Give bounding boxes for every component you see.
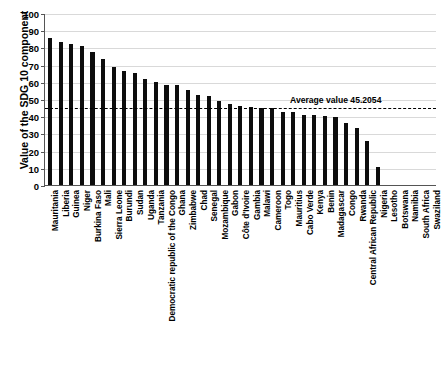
bar [249, 107, 253, 186]
y-tick-label: 80 [28, 43, 39, 54]
bar [238, 106, 242, 186]
x-label-slot: Liberia [55, 190, 66, 340]
bar-slot [193, 14, 204, 186]
y-tick-label: 10 [28, 163, 39, 174]
x-label-slot: Mauritania [44, 190, 55, 340]
y-tick-label: 70 [28, 60, 39, 71]
x-label-slot: Zimbabwe [182, 190, 193, 340]
x-label-slot: Benin [319, 190, 330, 340]
bar-slot [161, 14, 172, 186]
y-tick-label: 100 [23, 9, 39, 20]
y-tick-label: 50 [28, 95, 39, 106]
bar-slot [256, 14, 267, 186]
x-label-slot: Mali [97, 190, 108, 340]
bar-slot [415, 14, 426, 186]
bar [80, 46, 84, 186]
bar [112, 67, 116, 186]
y-tick-label: 90 [28, 26, 39, 37]
bar-slot [119, 14, 130, 186]
y-tick-label: 0 [34, 181, 39, 192]
bar [323, 116, 327, 186]
x-label-slot: Swaziland [425, 190, 436, 340]
bar [164, 85, 168, 186]
bar-slot [425, 14, 436, 186]
x-label-slot: Burundi [118, 190, 129, 340]
bar [355, 128, 359, 186]
x-label-slot: Namibia [404, 190, 415, 340]
x-label-slot: Cabo Verde [298, 190, 309, 340]
bar [48, 38, 52, 186]
bar-slot [394, 14, 405, 186]
sdg10-bar-chart-figure: Value of the SDG 10 component 0102030405… [0, 0, 444, 374]
bar [333, 117, 337, 186]
bar [259, 108, 263, 186]
bar-slot [277, 14, 288, 186]
x-label-slot: Congo [341, 190, 352, 340]
bar-slot [225, 14, 236, 186]
x-label-slot: Senegal [203, 190, 214, 340]
x-label-slot: Gambia [245, 190, 256, 340]
x-label-slot: Madagascar [330, 190, 341, 340]
x-label-slot: Gabon [224, 190, 235, 340]
bar [344, 123, 348, 186]
bar [228, 104, 232, 186]
bar-slot [56, 14, 67, 186]
bar [217, 101, 221, 186]
y-tick-label: 40 [28, 112, 39, 123]
bar [90, 52, 94, 186]
x-label-slot: Mozambique [214, 190, 225, 340]
x-label-slot: Mauritius [288, 190, 299, 340]
bar [186, 90, 190, 186]
bar-slot [404, 14, 415, 186]
bar [175, 85, 179, 186]
x-label-slot: Rwanda [351, 190, 362, 340]
x-label-slot: Burkina Faso [86, 190, 97, 340]
bar-slot [98, 14, 109, 186]
x-tick-label: Swaziland [434, 190, 442, 230]
bar [302, 115, 306, 186]
bar-slot [246, 14, 257, 186]
bar [281, 112, 285, 186]
y-tick-label: 20 [28, 146, 39, 157]
bar [270, 108, 274, 186]
x-label-slot: Botswana [394, 190, 405, 340]
x-label-slot: Côte d'Ivoire [235, 190, 246, 340]
bar [207, 96, 211, 186]
bar [154, 82, 158, 186]
x-label-slot: Cameroon [266, 190, 277, 340]
bar-slot [130, 14, 141, 186]
x-label-slot: Lesotho [383, 190, 394, 340]
x-label-slot: Uganda [139, 190, 150, 340]
bar-slot [140, 14, 151, 186]
bar [133, 73, 137, 186]
bar [312, 115, 316, 186]
bar [59, 42, 63, 186]
x-axis-line [45, 185, 436, 186]
x-label-slot: Ghana [171, 190, 182, 340]
bar-slot [235, 14, 246, 186]
bar-slot [182, 14, 193, 186]
x-label-slot: Tanzania [150, 190, 161, 340]
x-label-slot: Guinea [65, 190, 76, 340]
bar-slot [66, 14, 77, 186]
y-tick-mark [41, 186, 45, 187]
bar [143, 79, 147, 186]
bar [101, 59, 105, 186]
x-label-slot: Kenya [309, 190, 320, 340]
bar-slot [77, 14, 88, 186]
x-label-slot: Nigeria [372, 190, 383, 340]
bar-slot [214, 14, 225, 186]
bar-slot [267, 14, 278, 186]
y-tick-label: 60 [28, 77, 39, 88]
bar-slot [45, 14, 56, 186]
bar-slot [87, 14, 98, 186]
bar [291, 112, 295, 186]
x-label-slot: Sierra Leone [108, 190, 119, 340]
x-label-slot: Sudan [129, 190, 140, 340]
bar-slot [203, 14, 214, 186]
bar-slot [151, 14, 162, 186]
bar-slot [108, 14, 119, 186]
x-axis-tick-labels: MauritaniaLiberiaGuineaNigerBurkina Faso… [44, 190, 436, 340]
x-label-slot: Central African Republic [362, 190, 373, 340]
x-label-slot: Niger [76, 190, 87, 340]
